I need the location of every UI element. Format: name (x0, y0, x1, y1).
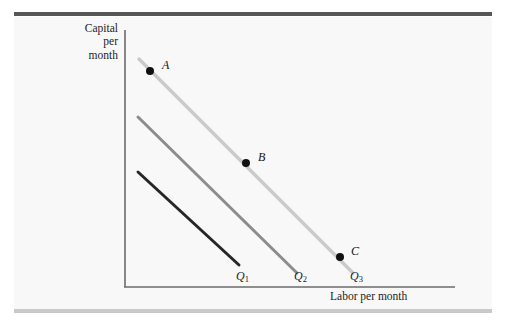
point-label-b: B (258, 150, 265, 165)
data-point-b (242, 159, 250, 167)
isoquant-line-q1 (138, 172, 239, 265)
y-axis-label-line-3: month (38, 49, 118, 62)
curve-label-q2: Q2 (294, 269, 307, 284)
curve-label-q2-subscript: 2 (303, 274, 307, 284)
curve-label-q3: Q3 (350, 269, 363, 284)
data-point-a (146, 67, 154, 75)
curve-label-q1-subscript: 1 (245, 274, 249, 284)
data-point-c (336, 253, 344, 261)
y-axis-label-line-1: Capital (38, 22, 118, 35)
point-label-a: A (162, 58, 169, 73)
curve-label-q2-letter: Q (294, 269, 303, 283)
curve-label-q1: Q1 (236, 269, 249, 284)
point-label-c: C (351, 244, 359, 259)
curve-label-q3-subscript: 3 (359, 274, 363, 284)
isoquant-figure: Capital per month Labor per month Q1 Q2 … (0, 0, 506, 320)
curve-label-q1-letter: Q (236, 269, 245, 283)
x-axis-label: Labor per month (330, 290, 407, 302)
y-axis-label-line-2: per (38, 35, 118, 48)
curve-label-q3-letter: Q (350, 269, 359, 283)
y-axis-label: Capital per month (38, 22, 118, 62)
